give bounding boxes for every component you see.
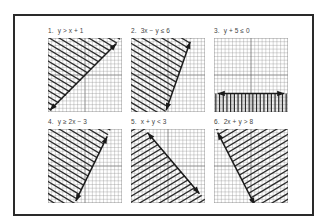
- panel-label: 6.2x + y > 8: [214, 118, 253, 125]
- panel-number: 2.: [131, 27, 137, 34]
- panel-label: 3.y + 5 ≤ 0: [214, 27, 250, 34]
- inequality-text: 2x + y > 8: [224, 118, 254, 125]
- inequality-text: y > x + 1: [58, 27, 84, 34]
- coordinate-grid: [214, 38, 288, 112]
- panel-number: 4.: [48, 118, 54, 125]
- figure-frame: 1.y > x + 1 2.3x − y ≤ 6 3.y + 5 ≤ 0 4.y…: [13, 14, 314, 216]
- inequality-text: x + y < 3: [141, 118, 167, 125]
- panel-number: 1.: [48, 27, 54, 34]
- inequality-text: 3x − y ≤ 6: [141, 27, 170, 34]
- coordinate-grid: [131, 129, 205, 203]
- coordinate-grid: [48, 129, 122, 203]
- coordinate-grid: [48, 38, 122, 112]
- coordinate-grid: [131, 38, 205, 112]
- panel-label: 4.y ≥ 2x − 3: [48, 118, 87, 125]
- coordinate-grid: [214, 129, 288, 203]
- inequality-text: y + 5 ≤ 0: [224, 27, 250, 34]
- panel-label: 5.x + y < 3: [131, 118, 166, 125]
- panel-number: 5.: [131, 118, 137, 125]
- panel-label: 2.3x − y ≤ 6: [131, 27, 170, 34]
- panel-number: 3.: [214, 27, 220, 34]
- panel-label: 1.y > x + 1: [48, 27, 83, 34]
- panel-number: 6.: [214, 118, 220, 125]
- inequality-text: y ≥ 2x − 3: [58, 118, 87, 125]
